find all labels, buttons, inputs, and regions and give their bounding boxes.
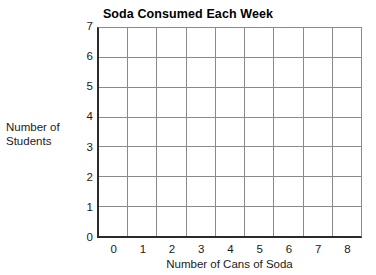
y-tick-label-2: 2 [75,172,93,184]
y-tick-label-3: 3 [75,142,93,154]
x-tick-label-1: 1 [128,243,157,255]
x-tick-label-8: 8 [333,243,362,255]
grid-column-8 [333,28,361,236]
x-tick-label-7: 7 [304,243,333,255]
grid-column-3 [187,28,216,236]
y-tick-label-5: 5 [75,82,93,94]
grid-column-6 [274,28,303,236]
y-tick-label-7: 7 [75,21,93,33]
chart-title: Soda Consumed Each Week [0,7,376,21]
y-tick-label-6: 6 [75,51,93,63]
grid-column-5 [245,28,274,236]
y-axis-tick-labels: 76543210 [75,27,93,238]
x-tick-label-3: 3 [187,243,216,255]
x-axis-title: Number of Cans of Soda [97,258,362,270]
grid-column-0 [99,28,128,236]
grid-column-1 [128,28,157,236]
x-tick-label-4: 4 [216,243,245,255]
x-tick-label-2: 2 [157,243,186,255]
y-tick-label-1: 1 [75,202,93,214]
x-tick-label-5: 5 [245,243,274,255]
y-tick-label-4: 4 [75,112,93,124]
y-tick-label-0: 0 [75,232,93,244]
grid-column-7 [304,28,333,236]
plot-area [97,27,362,238]
x-axis-tick-labels: 012345678 [99,243,362,255]
grid-column-4 [216,28,245,236]
grid-vertical-lines [99,28,361,236]
x-tick-label-6: 6 [274,243,303,255]
x-tick-label-0: 0 [99,243,128,255]
grid-column-2 [157,28,186,236]
